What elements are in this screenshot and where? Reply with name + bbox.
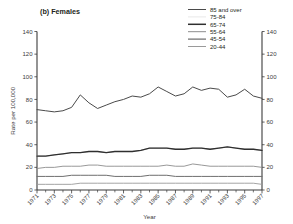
y-tick-label-right-0: 0 [267, 187, 271, 193]
x-tick-label-1997: 1997 [251, 193, 265, 207]
y-tick-label-right-100: 100 [267, 74, 278, 80]
y-tick-label-left-60: 60 [26, 119, 33, 125]
y-tick-label-left-140: 140 [22, 29, 33, 35]
y-axis-title: Rate per 100,000 [9, 86, 16, 134]
chart-series-group [37, 87, 262, 184]
x-tick-label-1981: 1981 [113, 193, 127, 207]
chart-legend: 85 and over75-8465-7455-6445-5420-44 [188, 7, 242, 50]
y-tick-label-right-20: 20 [267, 164, 274, 170]
x-axis-title: Year [143, 213, 156, 220]
legend-label-3: 65-74 [210, 22, 226, 28]
legend-label-6: 20-44 [210, 44, 226, 50]
x-tick-label-1995: 1995 [234, 192, 248, 206]
y-tick-label-right-140: 140 [267, 29, 278, 35]
legend-label-2: 75-84 [210, 14, 226, 20]
series-line-1 [37, 87, 262, 112]
y-tick-label-left-100: 100 [22, 74, 33, 80]
x-tick-label-1971: 1971 [26, 193, 40, 207]
chart-figure: (b) Females 85 and over75-8465-7455-6445… [0, 0, 293, 224]
x-tick-label-1987: 1987 [165, 193, 179, 207]
y-tick-label-right-120: 120 [267, 51, 278, 57]
y-tick-label-left-120: 120 [22, 51, 33, 57]
chart-title: (b) Females [40, 7, 80, 16]
y-tick-label-left-40: 40 [26, 142, 33, 148]
x-tick-label-1979: 1979 [95, 193, 109, 207]
y-tick-label-right-40: 40 [267, 142, 274, 148]
series-line-3 [37, 147, 262, 156]
chart-canvas: (b) Females 85 and over75-8465-7455-6445… [0, 0, 293, 224]
y-tick-label-right-60: 60 [267, 119, 274, 125]
x-tick-label-1983: 1983 [130, 192, 144, 206]
y-tick-label-right-80: 80 [267, 97, 274, 103]
chart-axes: 0020204040606080801001001201201401401971… [22, 29, 277, 207]
x-tick-label-1985: 1985 [147, 192, 161, 206]
y-tick-label-left-20: 20 [26, 164, 33, 170]
y-tick-label-left-80: 80 [26, 97, 33, 103]
x-tick-label-1991: 1991 [199, 193, 213, 207]
x-tick-label-1977: 1977 [78, 193, 92, 207]
legend-label-1: 85 and over [210, 7, 242, 13]
series-line-6 [37, 183, 262, 184]
series-line-5 [37, 175, 262, 176]
x-tick-label-1993: 1993 [217, 192, 231, 206]
x-tick-label-1973: 1973 [44, 192, 58, 206]
legend-label-4: 55-64 [210, 29, 226, 35]
x-tick-label-1975: 1975 [61, 192, 75, 206]
x-tick-label-1989: 1989 [182, 193, 196, 207]
y-tick-label-left-0: 0 [29, 187, 33, 193]
legend-label-5: 45-54 [210, 36, 226, 42]
series-line-4 [37, 164, 262, 169]
